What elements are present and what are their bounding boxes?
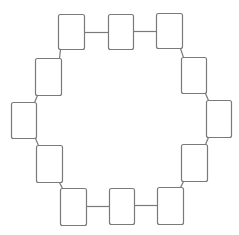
node-box-n10 xyxy=(37,146,63,183)
connector-line xyxy=(60,183,63,189)
node-box-n1 xyxy=(59,15,85,50)
node-box-n7 xyxy=(158,188,184,225)
connector-line xyxy=(206,94,209,101)
node-box-n11 xyxy=(12,103,37,139)
node-box-n4 xyxy=(182,58,207,94)
connector-line xyxy=(35,96,38,103)
connector-line xyxy=(206,138,209,145)
node-box-n9 xyxy=(61,189,87,226)
connector-line xyxy=(36,139,39,146)
node-boxes xyxy=(12,14,232,226)
ring-diagram xyxy=(0,0,239,235)
node-box-n12 xyxy=(36,59,62,96)
node-box-n2 xyxy=(109,15,134,50)
node-box-n5 xyxy=(207,101,232,138)
node-box-n3 xyxy=(157,14,183,49)
connector-line xyxy=(181,49,184,58)
connector-line xyxy=(60,50,61,59)
node-box-n8 xyxy=(110,189,135,225)
node-box-n6 xyxy=(182,145,208,182)
connector-line xyxy=(181,182,184,188)
